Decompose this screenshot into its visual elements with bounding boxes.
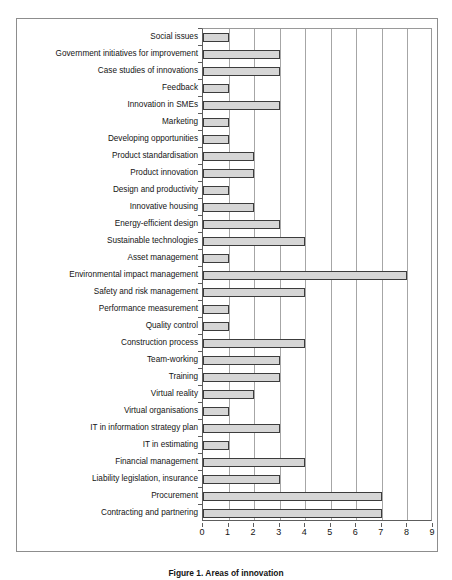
category-tick [198, 300, 202, 301]
category-label: Quality control [0, 321, 198, 331]
category-tick [198, 164, 202, 165]
x-tick-label: 4 [292, 527, 316, 537]
category-label: Design and productivity [0, 185, 198, 195]
category-tick [198, 147, 202, 148]
category-label: Product innovation [0, 168, 198, 178]
category-label: Virtual reality [0, 389, 198, 399]
category-tick [198, 232, 202, 233]
category-tick [198, 368, 202, 369]
category-tick [198, 351, 202, 352]
category-tick [198, 45, 202, 46]
category-tick [198, 419, 202, 420]
category-label: Energy-efficient design [0, 219, 198, 229]
x-tick-label: 1 [216, 527, 240, 537]
x-axis: 0123456789 [0, 523, 452, 541]
figure-caption: Figure 1. Areas of innovation [0, 568, 452, 578]
category-label: Financial management [0, 457, 198, 467]
category-tick [198, 113, 202, 114]
category-tick [198, 334, 202, 335]
category-label: Asset management [0, 253, 198, 263]
category-tick [198, 130, 202, 131]
category-tick [198, 266, 202, 267]
category-label: Government initiatives for improvement [0, 49, 198, 59]
category-tick [198, 436, 202, 437]
bar-chart: Social issuesGovernment initiatives for … [0, 0, 452, 580]
x-tick-label: 3 [267, 527, 291, 537]
category-tick [198, 62, 202, 63]
category-tick [198, 215, 202, 216]
x-tick-label: 0 [190, 527, 214, 537]
category-tick [198, 402, 202, 403]
category-label: Social issues [0, 32, 198, 42]
category-label: Team-working [0, 355, 198, 365]
x-tick-label: 8 [394, 527, 418, 537]
category-label: Case studies of innovations [0, 66, 198, 76]
category-tick [198, 28, 202, 29]
category-tick [198, 198, 202, 199]
category-tick [198, 385, 202, 386]
category-tick [198, 504, 202, 505]
category-label: Developing opportunities [0, 134, 198, 144]
category-label: Environmental impact management [0, 270, 198, 280]
category-label: Procurement [0, 491, 198, 501]
category-label: Sustainable technologies [0, 236, 198, 246]
category-tick [198, 453, 202, 454]
category-label: Virtual organisations [0, 406, 198, 416]
category-tick [198, 470, 202, 471]
category-label: Innovative housing [0, 202, 198, 212]
x-tick-label: 7 [369, 527, 393, 537]
category-label: Marketing [0, 117, 198, 127]
category-tick [198, 79, 202, 80]
category-tick [198, 283, 202, 284]
x-tick-label: 2 [241, 527, 265, 537]
category-tick [198, 96, 202, 97]
category-label: Training [0, 372, 198, 382]
x-tick-label: 6 [343, 527, 367, 537]
category-tick [198, 249, 202, 250]
category-label: IT in information strategy plan [0, 423, 198, 433]
x-tick-label: 5 [318, 527, 342, 537]
category-label: Contracting and partnering [0, 508, 198, 518]
category-tick [198, 181, 202, 182]
category-label: IT in estimating [0, 440, 198, 450]
category-tick [198, 317, 202, 318]
category-label: Product standardisation [0, 151, 198, 161]
category-tick [198, 487, 202, 488]
category-label: Feedback [0, 83, 198, 93]
category-label: Performance measurement [0, 304, 198, 314]
category-label: Construction process [0, 338, 198, 348]
category-label: Safety and risk management [0, 287, 198, 297]
x-tick-label: 9 [420, 527, 444, 537]
category-label: Innovation in SMEs [0, 100, 198, 110]
category-label: Liability legislation, insurance [0, 474, 198, 484]
category-axis-labels: Social issuesGovernment initiatives for … [0, 28, 452, 521]
